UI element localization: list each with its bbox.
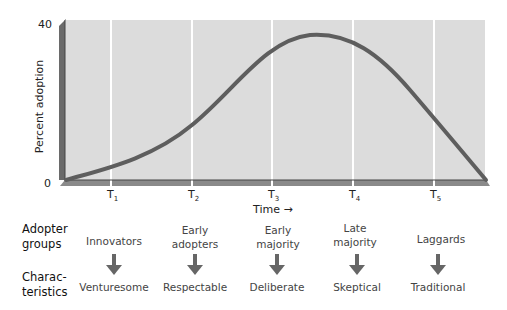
down-arrow-icon (346, 254, 368, 276)
y-axis-title: Percent adoption (33, 52, 46, 162)
x-axis-edge (60, 180, 490, 186)
group-innovators: Innovators (69, 234, 159, 248)
label-line: groups (22, 237, 68, 252)
label-line: Adopter (22, 222, 68, 237)
characteristic-venturesome: Venturesome (69, 280, 159, 294)
adopter-groups-label: Adopter groups (22, 222, 68, 252)
adoption-chart (0, 0, 507, 200)
y-min-label: 0 (44, 177, 51, 190)
group-late-majority: Latemajority (310, 221, 400, 249)
plot-panel (65, 20, 485, 180)
tick-t3: T3 (268, 188, 279, 203)
tick-t4: T4 (349, 188, 360, 203)
group-laggards: Laggards (396, 232, 486, 246)
label-line: Charac- (22, 270, 68, 285)
characteristic-deliberate: Deliberate (232, 280, 322, 294)
down-arrow-icon (427, 254, 449, 276)
characteristic-respectable: Respectable (150, 280, 240, 294)
tick-t5: T5 (430, 188, 441, 203)
label-line: teristics (22, 285, 68, 300)
group-early-adopters: Earlyadopters (150, 223, 240, 251)
characteristics-label: Charac- teristics (22, 270, 68, 300)
tick-t1: T1 (107, 188, 118, 203)
y-max-label: 40 (38, 18, 52, 31)
tick-t2: T2 (188, 188, 199, 203)
down-arrow-icon (103, 254, 125, 276)
characteristic-skeptical: Skeptical (312, 280, 402, 294)
x-axis-title: Time → (253, 203, 293, 216)
characteristic-traditional: Traditional (393, 280, 483, 294)
down-arrow-icon (184, 254, 206, 276)
down-arrow-icon (266, 254, 288, 276)
